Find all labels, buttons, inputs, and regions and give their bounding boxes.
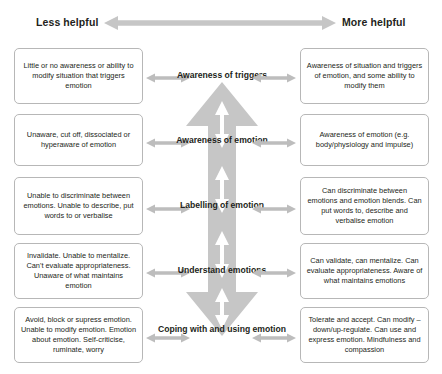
less-helpful-text: Invalidate. Unable to mentalize. Can't e…: [20, 251, 137, 292]
connector-arrow-right-row-4: [252, 330, 296, 342]
connector-arrow-right-row-3: [252, 265, 296, 277]
emotion-regulation-diagram: Less helpful More helpful Little or no a…: [0, 0, 442, 374]
less-helpful-text: Avoid, block or supress emotion. Unable …: [20, 315, 137, 356]
axis-label-less-helpful: Less helpful: [36, 16, 98, 29]
connector-arrow-right-row-1: [252, 135, 296, 147]
connector-arrow-right-row-2: [252, 201, 296, 213]
more-helpful-text: Can discriminate between emotions and em…: [306, 186, 423, 227]
more-helpful-box-row-0: Awareness of situation and triggers of e…: [300, 48, 429, 104]
more-helpful-box-row-1: Awareness of emotion (e.g. body/physiolo…: [300, 114, 429, 166]
more-helpful-text: Tolerate and accept. Can modify – down/u…: [306, 315, 423, 356]
less-helpful-box-row-3: Invalidate. Unable to mentalize. Can't e…: [14, 243, 143, 299]
more-helpful-box-row-2: Can discriminate between emotions and em…: [300, 177, 429, 235]
axis-label-more-helpful: More helpful: [342, 16, 406, 29]
more-helpful-box-row-3: Can validate, can mentalize. Can evaluat…: [300, 243, 429, 299]
more-helpful-text: Awareness of situation and triggers of e…: [306, 61, 423, 92]
connector-arrow-right-row-0: [252, 70, 296, 82]
more-helpful-text: Can validate, can mentalize. Can evaluat…: [306, 256, 423, 287]
less-helpful-box-row-0: Little or no awareness or ability to mod…: [14, 48, 143, 104]
more-helpful-text: Awareness of emotion (e.g. body/physiolo…: [306, 130, 423, 150]
less-helpful-text: Unaware, cut off, dissociated or hyperaw…: [20, 130, 137, 150]
less-helpful-box-row-2: Unable to discriminate between emotions.…: [14, 177, 143, 235]
less-helpful-box-row-4: Avoid, block or supress emotion. Unable …: [14, 307, 143, 363]
less-helpful-box-row-1: Unaware, cut off, dissociated or hyperaw…: [14, 114, 143, 166]
double-headed-horizontal-arrow-icon: [104, 15, 336, 31]
less-helpful-text: Unable to discriminate between emotions.…: [20, 191, 137, 222]
more-helpful-box-row-4: Tolerate and accept. Can modify – down/u…: [300, 307, 429, 363]
less-helpful-text: Little or no awareness or ability to mod…: [20, 61, 137, 92]
